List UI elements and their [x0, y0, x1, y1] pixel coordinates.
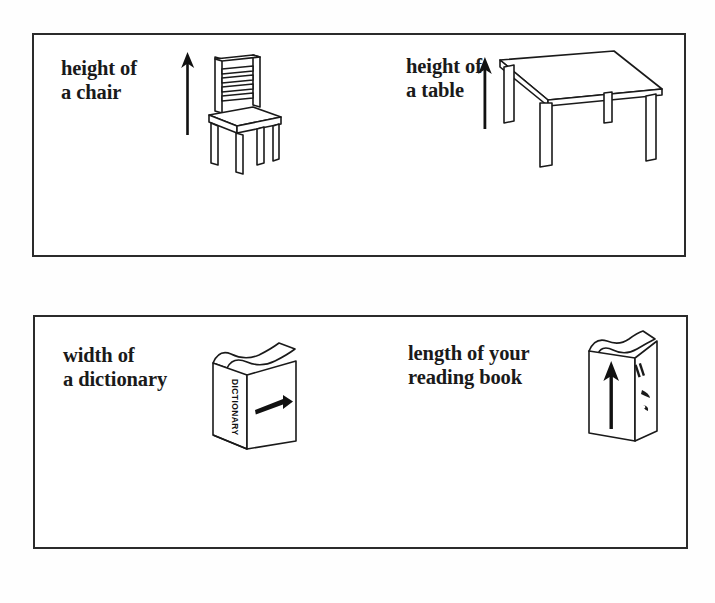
- item-label-table: height of a table: [406, 55, 482, 103]
- dictionary-spine-label: DICTIONARY: [230, 379, 240, 436]
- item-label-readingbook: length of your reading book: [408, 342, 530, 390]
- item-label-dictionary: width of a dictionary: [63, 344, 167, 392]
- reading-book-illustration: [573, 327, 673, 447]
- panel-bottom: width of a dictionary: [33, 315, 688, 549]
- panel-top: height of a chair: [32, 33, 686, 257]
- worksheet-page: height of a chair: [0, 0, 715, 603]
- item-dictionary: width of a dictionary: [35, 317, 365, 547]
- item-label-chair: height of a chair: [61, 57, 137, 105]
- table-illustration: [474, 45, 664, 175]
- chair-illustration: [167, 47, 297, 177]
- up-arrow-icon: [478, 57, 492, 129]
- item-chair: height of a chair: [34, 35, 364, 255]
- dictionary-book-illustration: DICTIONARY: [203, 335, 313, 455]
- item-table: height of a table: [364, 35, 686, 255]
- up-arrow-icon: [181, 52, 194, 135]
- item-readingbook: length of your reading book: [365, 317, 688, 547]
